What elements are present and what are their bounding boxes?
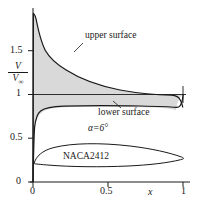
velocity-distribution-chart: 0 0.5 1 1.5 0 0.5 1 x V V∞ upper surface… [0,0,197,201]
x-axis-title: x [148,187,152,197]
airfoil-label: NACA2412 [63,152,109,162]
y-tick-label-1: 1 [16,88,21,98]
y-axis-title: V V∞ [8,62,28,86]
x-tick-label-1: 1 [181,186,186,196]
upper-surface-label: upper surface [85,31,136,41]
y-axis-title-denominator: V∞ [8,74,28,86]
x-tick-label-0-5: 0.5 [100,186,113,196]
y-tick-label-1-5: 1.5 [10,45,23,55]
y-tick-label-0: 0 [16,176,21,186]
upper-surface-leader [74,43,83,52]
y-axis-ticks [28,51,33,182]
y-tick-label-0-5: 0.5 [10,132,23,142]
alpha-label: α=6° [88,124,108,134]
x-tick-label-0: 0 [30,186,35,196]
lower-surface-label: lower surface [98,108,149,118]
y-axis-title-numerator: V [8,62,28,72]
